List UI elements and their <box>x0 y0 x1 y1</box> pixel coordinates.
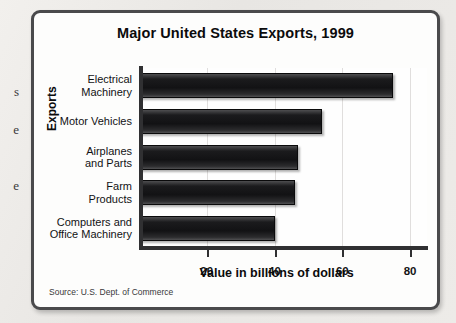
category-label-line: Computers and <box>57 216 132 228</box>
category-label: Computers andOffice Machinery <box>31 216 139 241</box>
category-label: Airplanesand Parts <box>31 145 139 170</box>
source-note: Source: U.S. Dept. of Commerce <box>49 287 173 297</box>
x-tick <box>342 250 344 257</box>
x-axis-line <box>139 246 428 250</box>
x-tick <box>410 250 412 257</box>
gridline <box>410 68 411 246</box>
category-label-line: Products <box>89 193 132 205</box>
category-label: Motor Vehicles <box>31 115 139 128</box>
category-label-line: Office Machinery <box>50 228 132 240</box>
category-label-line: Machinery <box>81 86 132 98</box>
category-label-line: and Parts <box>85 157 132 169</box>
bar <box>139 73 393 98</box>
category-label-line: Electrical <box>87 73 132 85</box>
plot-area: ElectricalMachineryMotor VehiclesAirplan… <box>139 68 427 246</box>
x-axis-title: Value in billions of dollars <box>34 266 437 280</box>
x-tick <box>275 250 277 257</box>
category-label: ElectricalMachinery <box>31 73 139 98</box>
x-tick <box>207 250 209 257</box>
category-label-line: Airplanes <box>86 145 132 157</box>
bar <box>139 145 298 170</box>
bar <box>139 216 275 241</box>
bar <box>139 109 322 134</box>
category-label-line: Farm <box>106 180 132 192</box>
bar <box>139 180 295 205</box>
category-label-line: Motor Vehicles <box>60 115 132 127</box>
margin-text-fragment-3: e <box>0 178 22 194</box>
chart-card: Major United States Exports, 1999 Export… <box>31 10 440 310</box>
margin-text-fragment-2: e <box>0 122 22 138</box>
margin-text-fragment-1: s <box>0 84 22 100</box>
chart-title: Major United States Exports, 1999 <box>34 25 437 41</box>
y-axis-line <box>139 66 143 248</box>
category-label: FarmProducts <box>31 180 139 205</box>
